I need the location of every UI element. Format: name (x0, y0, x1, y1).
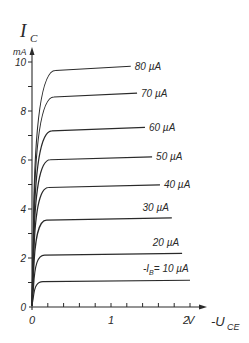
curve-ib-30 (32, 218, 172, 306)
curve-label-40: 40 µA (164, 179, 191, 190)
y-tick-label: 10 (15, 57, 27, 68)
y-axis-title: I C (19, 20, 38, 44)
y-axis-arrow-icon (30, 47, 35, 55)
x-tick-label: 0 (29, 314, 36, 326)
curve-label-10-value: = 10 µA (154, 263, 189, 274)
curve-label-20: 20 µA (152, 237, 180, 248)
curve-ib-40 (32, 185, 160, 306)
x-axis-title-sub: CE (227, 322, 240, 332)
curve-label-30: 30 µA (142, 202, 169, 213)
curve-label-10: -IB= 10 µA (143, 263, 189, 276)
curve-labels: -IB= 10 µA20 µA30 µA40 µA50 µA60 µA70 µA… (135, 61, 191, 277)
y-axis-title-main: I (19, 20, 28, 41)
curve-label-60: 60 µA (149, 122, 176, 133)
curve-ib-20 (32, 253, 182, 305)
y-axis-unit: mA (13, 47, 27, 57)
x-tick-label: 1 (108, 314, 114, 326)
y-tick-label: 4 (20, 204, 26, 215)
x-axis-unit: V (187, 314, 196, 326)
x-axis-arrow-icon (199, 305, 207, 310)
curve-label-80: 80 µA (135, 61, 162, 72)
curve-ib-70 (32, 93, 137, 306)
curve-ib-60 (32, 127, 145, 305)
y-axis-title-sub: C (30, 32, 38, 44)
curve-label-70: 70 µA (141, 88, 168, 99)
y-tick-label: 0 (20, 302, 26, 313)
y-tick-label: 2 (19, 253, 26, 264)
curve-ib-50 (32, 157, 152, 306)
y-tick-label: 6 (20, 155, 26, 166)
curve-ib-10 (32, 280, 190, 305)
x-axis-title: -U CE (211, 314, 240, 332)
output-characteristics-chart: I C mA 0246810012 -IB= 10 µA20 µA30 µA40… (0, 0, 249, 343)
x-axis-title-main: -U (211, 314, 225, 329)
curve-label-50: 50 µA (156, 151, 183, 162)
y-tick-label: 8 (20, 106, 26, 117)
